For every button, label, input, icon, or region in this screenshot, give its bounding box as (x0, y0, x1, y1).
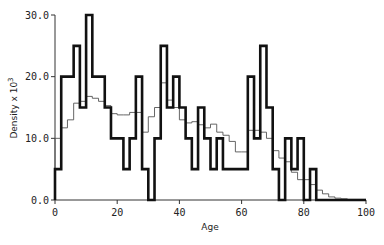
x-tick-label: 20 (111, 207, 123, 218)
y-tick-label: 20.0 (25, 71, 49, 82)
y-tick-label: 0.0 (31, 195, 49, 206)
x-tick-label: 60 (236, 207, 248, 218)
x-axis-label: Age (201, 222, 219, 232)
x-tick-label: 80 (298, 207, 310, 218)
y-axis-label: Density x 103 (7, 77, 19, 138)
axes (55, 15, 366, 200)
x-tick-label: 100 (357, 207, 375, 218)
axis-ticks: 0.010.020.030.0020406080100 (25, 10, 375, 219)
observed-series-line (55, 15, 366, 200)
x-tick-label: 40 (173, 207, 185, 218)
y-tick-label: 10.0 (25, 133, 49, 144)
x-tick-label: 0 (52, 207, 58, 218)
histogram-chart: 0.010.020.030.0020406080100 Age Density … (0, 0, 384, 245)
y-tick-label: 30.0 (25, 10, 49, 21)
